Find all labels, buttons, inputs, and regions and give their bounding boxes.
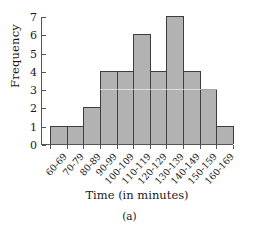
histogram-bar (50, 126, 68, 144)
x-tick-mark (133, 145, 134, 149)
y-tick-group: 1 (41, 127, 47, 128)
y-tick-mark (42, 108, 46, 109)
y-tick-group: 7 (41, 17, 47, 18)
y-tick-label: 2 (17, 103, 37, 114)
y-tick-label: 6 (17, 30, 37, 41)
x-tick-mark (100, 145, 101, 149)
x-tick-mark (150, 145, 151, 149)
y-tick-group: 6 (41, 35, 47, 36)
y-tick-group: 4 (41, 72, 47, 73)
histogram-bar (183, 71, 201, 144)
y-tick-group: 3 (41, 90, 47, 91)
plot-area: 01234567 (41, 17, 233, 145)
y-tick-mark (42, 127, 46, 128)
y-tick-mark (42, 72, 46, 73)
x-axis-ticks (41, 145, 233, 150)
y-tick-label: 3 (17, 85, 37, 96)
x-tick-mark (83, 145, 84, 149)
histogram-bar (100, 71, 118, 144)
histogram-bar (133, 34, 151, 144)
y-tick-mark (42, 54, 46, 55)
histogram-bar (166, 16, 184, 144)
y-tick-label: 1 (17, 121, 37, 132)
x-tick-mark (233, 145, 234, 149)
y-tick-mark (42, 90, 46, 91)
histogram-bar (150, 71, 168, 144)
x-tick-mark (200, 145, 201, 149)
x-tick-mark (183, 145, 184, 149)
y-tick-label: 0 (17, 140, 37, 151)
histogram-figure: Frequency 01234567 60-6970-7980-8990-991… (0, 0, 259, 232)
x-axis-title: Time (in minutes) (41, 188, 233, 202)
x-tick-mark (216, 145, 217, 149)
histogram-bar (200, 89, 218, 144)
y-tick-mark (42, 35, 46, 36)
y-tick-mark (42, 17, 46, 18)
figure-caption: (a) (0, 210, 259, 222)
histogram-bar (117, 71, 135, 144)
y-tick-group: 5 (41, 54, 47, 55)
x-tick-mark (50, 145, 51, 149)
x-tick-mark (67, 145, 68, 149)
x-tick-mark (117, 145, 118, 149)
histogram-bar (216, 126, 234, 144)
histogram-bar (67, 126, 85, 144)
histogram-bar (83, 107, 101, 144)
y-tick-label: 5 (17, 48, 37, 59)
bar-series (50, 17, 233, 144)
x-tick-mark (166, 145, 167, 149)
y-tick-group: 2 (41, 108, 47, 109)
y-tick-label: 7 (17, 12, 37, 23)
y-tick-label: 4 (17, 66, 37, 77)
